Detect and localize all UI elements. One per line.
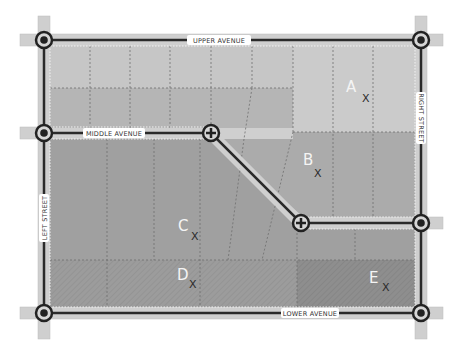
svg-text:D: D — [177, 266, 189, 284]
parcel-zones — [50, 46, 415, 307]
left-street-label: LEFT STREET — [39, 194, 49, 242]
svg-text:E: E — [369, 269, 378, 287]
zone-second-row — [50, 88, 293, 128]
svg-text:B: B — [303, 151, 313, 169]
svg-text:X: X — [314, 167, 322, 180]
svg-text:X: X — [382, 281, 390, 294]
svg-text:A: A — [346, 78, 357, 96]
plus-junction-icon — [293, 215, 309, 231]
site-plan-diagram: UPPER AVENUE LOWER AVENUE MIDDLE AVENUE … — [0, 0, 464, 356]
svg-text:X: X — [362, 92, 370, 105]
lower-avenue-label: LOWER AVENUE — [281, 308, 339, 318]
roundabout-icon — [413, 215, 429, 231]
roundabout-icon — [413, 305, 429, 321]
right-street-label: RIGHT STREET — [416, 92, 426, 144]
svg-text:X: X — [191, 230, 199, 243]
middle-avenue-label: MIDDLE AVENUE — [83, 128, 145, 138]
zone-e — [297, 260, 415, 307]
zone-d — [50, 260, 297, 307]
svg-text:LEFT STREET: LEFT STREET — [41, 196, 49, 240]
svg-text:X: X — [189, 278, 197, 291]
plus-junction-icon — [203, 125, 219, 141]
svg-text:LOWER AVENUE: LOWER AVENUE — [283, 310, 337, 318]
svg-text:RIGHT STREET: RIGHT STREET — [417, 93, 425, 143]
svg-text:MIDDLE AVENUE: MIDDLE AVENUE — [86, 130, 142, 138]
roundabout-icon — [36, 32, 52, 48]
upper-avenue-label: UPPER AVENUE — [187, 35, 251, 45]
roundabout-icon — [36, 125, 52, 141]
svg-text:C: C — [178, 217, 188, 235]
roundabout-icon — [413, 32, 429, 48]
svg-text:UPPER AVENUE: UPPER AVENUE — [193, 37, 245, 45]
roundabout-icon — [36, 305, 52, 321]
